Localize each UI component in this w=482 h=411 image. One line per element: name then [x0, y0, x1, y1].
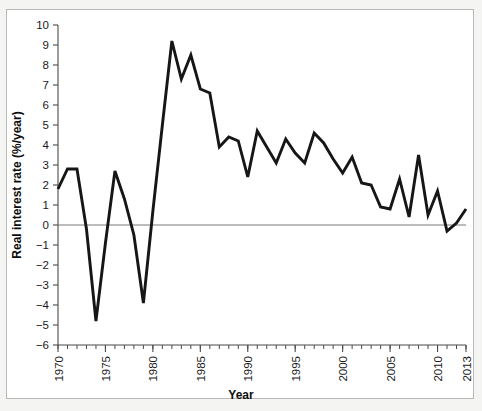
y-tick-label: −1: [36, 239, 49, 251]
y-tick-label: 7: [43, 79, 49, 91]
x-tick-label: 2005: [385, 356, 397, 382]
y-tick-label: −6: [36, 339, 49, 351]
y-tick-label: 4: [43, 139, 50, 151]
y-tick-label: 1: [43, 199, 49, 211]
chart-plot-area: Real interest rate (%/year) Year −6−5−4−…: [0, 0, 482, 411]
x-tick-label: 2000: [337, 356, 349, 382]
y-tick-label: 3: [43, 159, 49, 171]
y-tick-label: −4: [36, 299, 50, 311]
x-tick-label: 1995: [290, 356, 302, 382]
x-tick-mark-group: [58, 345, 466, 352]
y-tick-label: −5: [36, 319, 49, 331]
figure-root: Real interest rate (%/year) Year −6−5−4−…: [0, 0, 482, 411]
line-chart: Real interest rate (%/year) Year −6−5−4−…: [0, 0, 482, 411]
y-tick-label: 6: [43, 99, 49, 111]
x-tick-label: 2013: [461, 356, 473, 382]
y-tick-mark-group: [53, 25, 58, 345]
y-tick-label: 10: [36, 19, 49, 31]
x-tick-label: 1985: [195, 356, 207, 382]
x-tick-label: 1990: [242, 356, 254, 382]
y-axis-title: Real interest rate (%/year): [10, 111, 24, 258]
x-tick-label: 1970: [53, 356, 65, 382]
y-tick-label: 5: [43, 119, 49, 131]
data-series-line: [58, 41, 466, 321]
x-tick-label: 1975: [100, 356, 112, 382]
y-tick-label: 0: [43, 219, 49, 231]
y-tick-label: −2: [36, 259, 49, 271]
x-tick-label: 1980: [147, 356, 159, 382]
x-minor-tick-group: [58, 345, 466, 349]
y-tick-label: 9: [43, 39, 49, 51]
y-tick-label: −3: [36, 279, 49, 291]
y-tick-label: 2: [43, 179, 49, 191]
y-tick-label: 8: [43, 59, 49, 71]
x-tick-label-group: 1970197519801985199019952000200520102013: [53, 356, 473, 382]
x-tick-label: 2010: [432, 356, 444, 382]
x-axis-title: Year: [228, 388, 254, 402]
y-tick-label-group: −6−5−4−3−2−1012345678910: [36, 19, 50, 351]
